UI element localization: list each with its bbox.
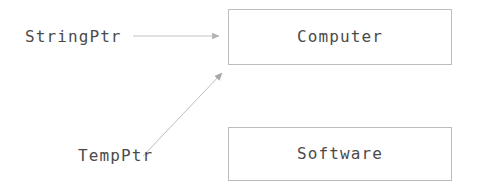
pointer-label-tempptr: TempPtr: [78, 148, 153, 164]
node-box-computer[interactable]: Computer: [228, 9, 452, 65]
pointer-diagram-canvas: Computer Software StringPtr TempPtr: [0, 0, 478, 192]
pointer-label-stringptr: StringPtr: [25, 29, 122, 45]
node-label-software: Software: [297, 146, 383, 162]
tempptr-arrow-line: [143, 73, 222, 156]
node-label-computer: Computer: [297, 29, 383, 45]
node-box-software[interactable]: Software: [228, 127, 452, 181]
